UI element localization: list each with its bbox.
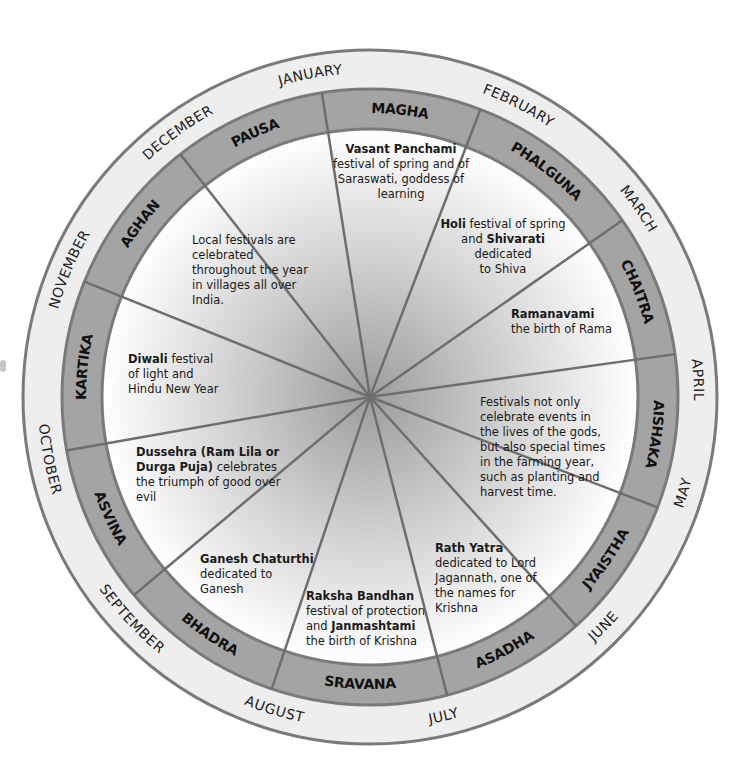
local-festivals-note: Local festivals are celebrated throughou… (192, 233, 317, 308)
festival-ramanavami: Ramanavami the birth of Rama (511, 307, 641, 337)
festival-name: Ganesh Chaturthi (200, 552, 314, 566)
festival-desc-2: the birth of Krishna (306, 634, 417, 648)
festival-dussehra: Dussehra (Ram Lila or Durga Puja) celebr… (136, 445, 286, 505)
festival-raksha-bandhan-janmashtami: Raksha Bandhan festival of protection an… (306, 589, 431, 649)
festival-name: Raksha Bandhan (306, 589, 414, 603)
festival-desc: festival of spring and of Saraswati, god… (331, 157, 471, 202)
festival-name-2: Shivarati (486, 232, 545, 246)
month-label-april: APRIL (689, 358, 707, 401)
festival-name: Diwali (128, 352, 168, 366)
farming-year-note: Festivals not only celebrate events in t… (480, 395, 610, 500)
festival-holi-shivarati: Holi festival of spring and Shivarati de… (438, 217, 568, 277)
festival-name: Vasant Panchami (345, 142, 456, 156)
note-text: Festivals not only celebrate events in t… (480, 395, 605, 499)
festival-desc: the birth of Rama (511, 322, 612, 336)
festival-name-2: Janmashtami (331, 619, 415, 633)
festival-name: Ramanavami (511, 307, 595, 321)
calendar-wheel: JANUARYFEBRUARYMARCHAPRILMAYJUNEJULYAUGU… (0, 0, 735, 776)
festival-vasant-panchami: Vasant Panchami festival of spring and o… (326, 142, 476, 202)
festival-desc: dedicated to Lord Jagannath, one of the … (435, 556, 537, 615)
festival-desc: dedicated to Ganesh (200, 567, 280, 597)
festival-desc-2: dedicated to Shiva (468, 247, 538, 277)
festival-name: Holi (440, 217, 465, 231)
festival-diwali: Diwali festival of light and Hindu New Y… (128, 352, 228, 397)
note-text: Local festivals are celebrated throughou… (192, 233, 308, 307)
festival-ganesh-chaturthi: Ganesh Chaturthi dedicated to Ganesh (200, 552, 320, 597)
festival-rath-yatra: Rath Yatra dedicated to Lord Jagannath, … (435, 541, 545, 616)
festival-name: Rath Yatra (435, 541, 503, 555)
